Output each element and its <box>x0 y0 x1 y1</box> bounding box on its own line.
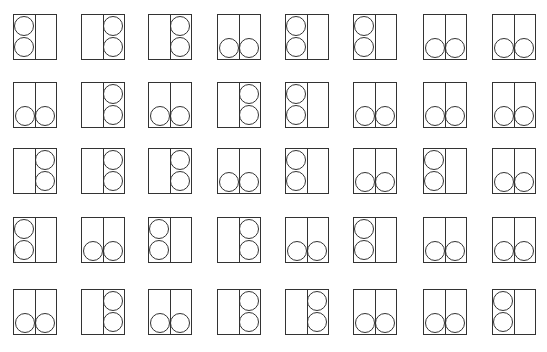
circle-icon <box>239 38 259 58</box>
circle-pattern-grid <box>0 0 547 352</box>
circle-icon <box>286 37 306 57</box>
circle-icon <box>355 313 375 333</box>
circle-icon <box>494 172 514 192</box>
split-square-2-5 <box>285 82 329 128</box>
circle-icon <box>170 37 190 57</box>
circle-icon <box>354 16 374 36</box>
split-square-2-6 <box>353 82 397 128</box>
circle-icon <box>14 219 34 239</box>
split-square-5-8 <box>492 289 536 335</box>
split-square-1-4 <box>217 14 261 60</box>
divider-line <box>307 83 308 127</box>
split-square-2-2 <box>81 82 125 128</box>
circle-icon <box>219 172 239 192</box>
circle-icon <box>286 16 306 36</box>
split-square-5-2 <box>81 289 125 335</box>
circle-icon <box>355 106 375 126</box>
circle-icon <box>445 313 465 333</box>
circle-icon <box>15 106 35 126</box>
circle-icon <box>170 171 190 191</box>
circle-icon <box>375 313 395 333</box>
split-square-3-4 <box>217 148 261 194</box>
split-square-2-8 <box>492 82 536 128</box>
split-square-3-3 <box>148 148 192 194</box>
circle-icon <box>239 105 259 125</box>
circle-icon <box>307 241 327 261</box>
circle-icon <box>375 172 395 192</box>
circle-icon <box>354 219 374 239</box>
split-square-4-5 <box>285 217 329 263</box>
circle-icon <box>307 312 327 332</box>
split-square-1-6 <box>353 14 397 60</box>
split-square-1-1 <box>13 14 57 60</box>
split-square-5-5 <box>285 289 329 335</box>
circle-icon <box>286 171 306 191</box>
circle-icon <box>239 312 259 332</box>
circle-icon <box>170 16 190 36</box>
circle-icon <box>286 105 306 125</box>
circle-icon <box>239 84 259 104</box>
split-square-4-4 <box>217 217 261 263</box>
circle-icon <box>493 291 513 311</box>
circle-icon <box>424 150 444 170</box>
split-square-3-8 <box>492 148 536 194</box>
circle-icon <box>170 106 190 126</box>
circle-icon <box>14 16 34 36</box>
divider-line <box>307 149 308 193</box>
circle-icon <box>287 241 307 261</box>
circle-icon <box>35 150 55 170</box>
circle-icon <box>170 150 190 170</box>
circle-icon <box>494 38 514 58</box>
circle-icon <box>286 150 306 170</box>
divider-line <box>514 290 515 334</box>
split-square-5-3 <box>148 289 192 335</box>
circle-icon <box>239 172 259 192</box>
circle-icon <box>494 241 514 261</box>
circle-icon <box>150 313 170 333</box>
circle-icon <box>15 313 35 333</box>
split-square-4-3 <box>148 217 192 263</box>
circle-icon <box>103 105 123 125</box>
split-square-1-8 <box>492 14 536 60</box>
split-square-4-7 <box>423 217 467 263</box>
circle-icon <box>493 312 513 332</box>
circle-icon <box>239 240 259 260</box>
circle-icon <box>103 171 123 191</box>
circle-icon <box>424 171 444 191</box>
circle-icon <box>307 291 327 311</box>
split-square-3-7 <box>423 148 467 194</box>
circle-icon <box>103 84 123 104</box>
circle-icon <box>514 38 534 58</box>
divider-line <box>375 218 376 262</box>
circle-icon <box>355 172 375 192</box>
split-square-4-6 <box>353 217 397 263</box>
split-square-1-5 <box>285 14 329 60</box>
circle-icon <box>425 241 445 261</box>
circle-icon <box>103 150 123 170</box>
split-square-5-1 <box>13 289 57 335</box>
split-square-1-3 <box>148 14 192 60</box>
circle-icon <box>445 241 465 261</box>
circle-icon <box>103 241 123 261</box>
circle-icon <box>14 37 34 57</box>
circle-icon <box>35 106 55 126</box>
circle-icon <box>239 291 259 311</box>
split-square-5-6 <box>353 289 397 335</box>
circle-icon <box>103 16 123 36</box>
split-square-3-1 <box>13 148 57 194</box>
split-square-4-2 <box>81 217 125 263</box>
split-square-4-8 <box>492 217 536 263</box>
split-square-2-1 <box>13 82 57 128</box>
split-square-5-4 <box>217 289 261 335</box>
circle-icon <box>150 106 170 126</box>
split-square-3-5 <box>285 148 329 194</box>
circle-icon <box>35 171 55 191</box>
circle-icon <box>375 106 395 126</box>
circle-icon <box>103 37 123 57</box>
circle-icon <box>425 313 445 333</box>
circle-icon <box>35 313 55 333</box>
circle-icon <box>425 38 445 58</box>
divider-line <box>375 15 376 59</box>
divider-line <box>35 15 36 59</box>
divider-line <box>445 149 446 193</box>
